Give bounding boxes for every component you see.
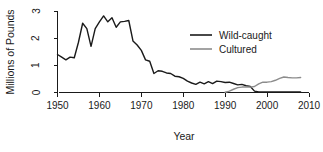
- series-line-wild-caught: [58, 16, 301, 92]
- legend-label-wild-caught: Wild-caught: [219, 30, 272, 41]
- x-axis-title: Year: [173, 130, 195, 142]
- x-tick-label: 1990: [214, 100, 237, 111]
- legend-label-cultured: Cultured: [219, 44, 257, 55]
- x-tick-marks: [58, 93, 310, 97]
- x-tick-label: 1970: [130, 100, 153, 111]
- x-tick-label: 1980: [172, 100, 195, 111]
- x-tick-label: 1950: [46, 100, 69, 111]
- x-tick-label: 2000: [256, 100, 279, 111]
- x-tick-label: 1960: [88, 100, 111, 111]
- x-tick-label: 2010: [298, 100, 321, 111]
- y-axis-group: 0123 Millions of Pounds: [4, 8, 58, 96]
- y-tick-label: 1: [31, 62, 42, 68]
- y-tick-label: 0: [31, 89, 42, 95]
- y-tick-marks: [54, 11, 58, 93]
- x-axis-group: 1950196019701980199020002010 Year: [46, 93, 320, 143]
- chart-container: 0123 Millions of Pounds 1950196019701980…: [0, 0, 323, 152]
- chart-legend: Wild-caughtCultured: [190, 30, 272, 55]
- y-tick-label: 3: [31, 8, 42, 14]
- y-tick-label: 2: [31, 35, 42, 41]
- y-axis-title: Millions of Pounds: [4, 9, 16, 94]
- line-chart: 0123 Millions of Pounds 1950196019701980…: [0, 0, 323, 152]
- y-tick-labels: 0123: [31, 8, 42, 96]
- x-tick-labels: 1950196019701980199020002010: [46, 100, 320, 111]
- data-series-group: [58, 16, 301, 92]
